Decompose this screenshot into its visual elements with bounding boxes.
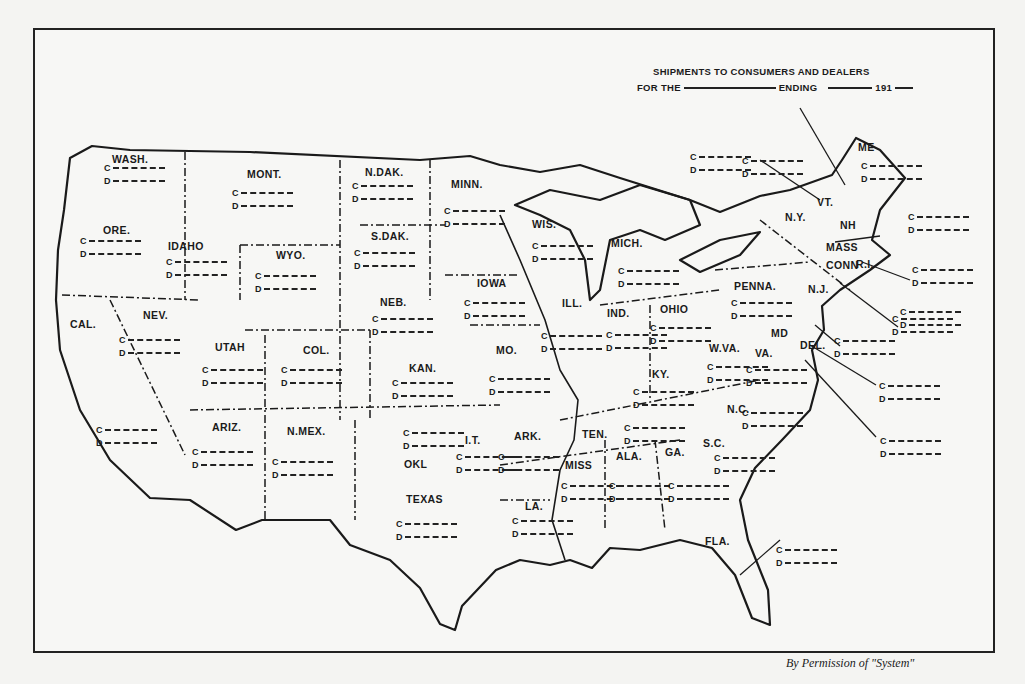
- dealers-blank[interactable]: [659, 340, 711, 342]
- consumers-row[interactable]: C: [489, 373, 550, 386]
- dealers-row[interactable]: D: [861, 173, 922, 186]
- consumers-row[interactable]: C: [609, 480, 670, 493]
- consumers-blank[interactable]: [659, 327, 711, 329]
- consumers-row[interactable]: C: [776, 544, 837, 557]
- consumers-row[interactable]: C: [892, 313, 953, 326]
- consumers-blank[interactable]: [843, 340, 895, 342]
- consumers-row[interactable]: C: [232, 187, 293, 200]
- dealers-blank[interactable]: [113, 180, 165, 182]
- consumers-row[interactable]: C: [541, 330, 602, 343]
- consumers-blank[interactable]: [507, 456, 559, 458]
- dealers-blank[interactable]: [201, 464, 253, 466]
- dealers-blank[interactable]: [507, 469, 559, 471]
- consumers-blank[interactable]: [642, 391, 694, 393]
- dealers-blank[interactable]: [633, 440, 685, 442]
- dealers-row[interactable]: D: [498, 464, 559, 477]
- dealers-blank[interactable]: [401, 395, 453, 397]
- consumers-blank[interactable]: [412, 432, 464, 434]
- consumers-row[interactable]: C: [392, 377, 453, 390]
- dealers-blank[interactable]: [677, 498, 729, 500]
- dealers-row[interactable]: D: [166, 269, 227, 282]
- dealers-blank[interactable]: [473, 315, 525, 317]
- dealers-blank[interactable]: [405, 536, 457, 538]
- dealers-row[interactable]: D: [908, 224, 969, 237]
- dealers-row[interactable]: D: [396, 531, 457, 544]
- dealers-row[interactable]: D: [104, 175, 165, 188]
- consumers-blank[interactable]: [363, 252, 415, 254]
- dealers-blank[interactable]: [498, 391, 550, 393]
- consumers-blank[interactable]: [889, 440, 941, 442]
- dealers-blank[interactable]: [627, 283, 679, 285]
- dealers-row[interactable]: D: [96, 437, 157, 450]
- dealers-blank[interactable]: [241, 205, 293, 207]
- consumers-blank[interactable]: [618, 485, 670, 487]
- dealers-row[interactable]: D: [541, 343, 602, 356]
- consumers-blank[interactable]: [751, 412, 803, 414]
- dealers-blank[interactable]: [716, 379, 768, 381]
- consumers-blank[interactable]: [453, 210, 505, 212]
- consumers-row[interactable]: C: [192, 446, 253, 459]
- dealers-row[interactable]: D: [742, 420, 803, 433]
- dealers-row[interactable]: D: [80, 248, 141, 261]
- dealers-blank[interactable]: [751, 173, 803, 175]
- consumers-blank[interactable]: [113, 167, 165, 169]
- dealers-blank[interactable]: [740, 315, 792, 317]
- consumers-row[interactable]: C: [714, 452, 775, 465]
- dealers-blank[interactable]: [888, 398, 940, 400]
- dealers-row[interactable]: D: [512, 528, 573, 541]
- consumers-blank[interactable]: [405, 523, 457, 525]
- consumers-blank[interactable]: [921, 269, 973, 271]
- consumers-blank[interactable]: [677, 485, 729, 487]
- dealers-blank[interactable]: [785, 562, 837, 564]
- dealers-row[interactable]: D: [879, 393, 940, 406]
- consumers-row[interactable]: C: [272, 456, 333, 469]
- dealers-blank[interactable]: [843, 353, 895, 355]
- dealers-blank[interactable]: [281, 474, 333, 476]
- dealers-blank[interactable]: [870, 178, 922, 180]
- dealers-row[interactable]: D: [880, 448, 941, 461]
- dealers-row[interactable]: D: [202, 377, 263, 390]
- dealers-blank[interactable]: [550, 348, 602, 350]
- consumers-row[interactable]: C: [731, 297, 792, 310]
- dealers-blank[interactable]: [211, 382, 263, 384]
- dealers-row[interactable]: D: [624, 435, 685, 448]
- dealers-blank[interactable]: [175, 274, 227, 276]
- consumers-blank[interactable]: [740, 302, 792, 304]
- dealers-blank[interactable]: [264, 288, 316, 290]
- consumers-row[interactable]: C: [690, 151, 751, 164]
- dealers-row[interactable]: D: [609, 493, 670, 506]
- dealers-row[interactable]: D: [714, 465, 775, 478]
- consumers-blank[interactable]: [901, 318, 953, 320]
- consumers-blank[interactable]: [290, 369, 342, 371]
- dealers-row[interactable]: D: [255, 283, 316, 296]
- consumers-row[interactable]: C: [624, 422, 685, 435]
- consumers-row[interactable]: C: [464, 297, 525, 310]
- consumers-blank[interactable]: [401, 382, 453, 384]
- consumers-blank[interactable]: [917, 216, 969, 218]
- consumers-blank[interactable]: [241, 192, 293, 194]
- consumers-blank[interactable]: [633, 427, 685, 429]
- consumers-blank[interactable]: [381, 318, 433, 320]
- dealers-blank[interactable]: [901, 331, 953, 333]
- dealers-row[interactable]: D: [707, 374, 768, 387]
- consumers-row[interactable]: C: [104, 162, 165, 175]
- consumers-row[interactable]: C: [879, 380, 940, 393]
- dealers-row[interactable]: D: [372, 326, 433, 339]
- dealers-blank[interactable]: [699, 169, 751, 171]
- consumers-row[interactable]: C: [352, 180, 413, 193]
- consumers-row[interactable]: C: [834, 335, 895, 348]
- dealers-row[interactable]: D: [489, 386, 550, 399]
- consumers-row[interactable]: C: [255, 270, 316, 283]
- dealers-blank[interactable]: [412, 445, 464, 447]
- dealers-row[interactable]: D: [776, 557, 837, 570]
- dealers-row[interactable]: D: [668, 493, 729, 506]
- consumers-row[interactable]: C: [354, 247, 415, 260]
- dealers-row[interactable]: D: [392, 390, 453, 403]
- consumers-blank[interactable]: [264, 275, 316, 277]
- dealers-row[interactable]: D: [464, 310, 525, 323]
- consumers-row[interactable]: C: [396, 518, 457, 531]
- consumers-blank[interactable]: [716, 366, 768, 368]
- dealers-blank[interactable]: [751, 425, 803, 427]
- dealers-row[interactable]: D: [690, 164, 751, 177]
- consumers-row[interactable]: C: [650, 322, 711, 335]
